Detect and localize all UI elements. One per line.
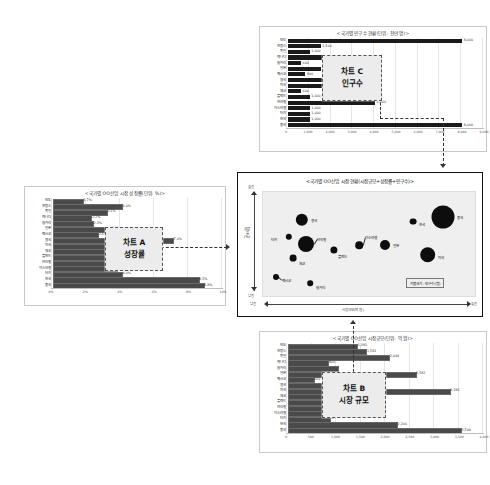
bubble-label-브라질: 브라질	[317, 236, 326, 241]
bar-track: 1,500	[288, 44, 484, 49]
bar-track: 1,000	[288, 94, 484, 99]
bar-category-label: 영국	[25, 238, 53, 243]
bubble-y-axis-title: 성장률(%)	[244, 227, 250, 239]
bar-track: 4.0%	[53, 204, 223, 209]
chart-b-title: <국가별 OO산업 시장규모(단위: 억 원)>	[260, 332, 486, 341]
bar-category-label: 일본	[260, 66, 288, 71]
connector-a-horizontal	[161, 247, 227, 248]
bubble-멕시코	[273, 274, 279, 280]
y-axis-arrow-down	[251, 287, 257, 291]
bar-value-label: 1,581	[365, 349, 376, 354]
bar-track	[288, 382, 484, 387]
bubble-체코	[290, 254, 297, 261]
axis-tick-label: 3,000	[347, 130, 356, 134]
callout-chart-b-line1: 차트 B	[343, 383, 365, 395]
bar-row: 독일3.1%	[25, 209, 223, 214]
axis-tick-label: 6%	[152, 290, 157, 294]
connector-c-vertical-stub	[380, 98, 381, 119]
bar-track: 8,000	[288, 123, 484, 128]
axis-tick-label: 4%	[117, 290, 122, 294]
bar-category-label: 캐나다	[260, 55, 288, 60]
bar-track	[288, 83, 484, 88]
bar-category-label: 폴란드	[260, 399, 288, 404]
bar-track	[288, 405, 484, 410]
axis-tick-label: 1,000	[303, 130, 312, 134]
bar-value-label: 4.0%	[121, 204, 131, 209]
bar-track: 3,000	[288, 77, 484, 82]
bar-track: 1,800	[288, 55, 484, 60]
bar-category-label: 헝가리	[260, 61, 288, 66]
bar-category-label: 이스라엘	[260, 106, 288, 111]
bar-row: 터키4.0%	[25, 271, 223, 276]
bar-track: 2,582	[288, 371, 484, 376]
bar-row: 한국2,206	[260, 422, 484, 427]
bubble-label-체코: 체코	[299, 260, 305, 265]
bar-category-label: 인도	[25, 198, 53, 203]
bar-value-label: 8,000	[462, 123, 473, 128]
bubble-중국	[431, 206, 454, 229]
axis-tick-label: 9,000	[479, 130, 488, 134]
bar-track	[288, 399, 484, 404]
bar	[288, 72, 305, 76]
bar-value-label: 2,582	[415, 371, 426, 376]
bar-row: 독일2,044	[260, 354, 484, 359]
bar	[288, 123, 462, 127]
bar-value-label: 8,000	[462, 38, 473, 43]
axis-tick-label: 0	[285, 130, 287, 134]
bar-row: 인도1,391	[260, 343, 484, 348]
bar-category-label: 이스라엘	[260, 411, 288, 416]
connector-b-vertical	[353, 326, 354, 372]
bar-track: 800	[288, 72, 484, 77]
bar-value-label: 2.2%	[90, 215, 100, 220]
bar-track: 4,000	[288, 100, 484, 105]
bar-value-label: 800	[305, 72, 313, 77]
bar-value-label: 1.7%	[82, 198, 92, 203]
axis-tick-label: 0%	[48, 290, 53, 294]
bar-row: 이스라엘1,000	[260, 106, 484, 111]
bar-row: 독일1,000	[260, 49, 484, 54]
bar-category-label: 독일	[260, 354, 288, 359]
bar	[288, 44, 321, 48]
bar	[288, 101, 375, 105]
y-axis-low-label: 낮음	[248, 293, 254, 298]
bar	[288, 112, 310, 116]
bar-value-label: 7.0%	[172, 237, 182, 242]
bar-category-label: 인도	[260, 38, 288, 43]
bar	[288, 39, 462, 43]
chart-c-title: <국가별 인구수 현황(단위: 천만 명)>	[260, 27, 486, 36]
axis-tick-label: 2,000	[325, 130, 334, 134]
bar-value-label: 2,044	[388, 354, 399, 359]
bubble-한국	[409, 218, 416, 225]
bar	[288, 95, 310, 99]
bar-track: 2,044	[288, 354, 484, 359]
bar-track: 1,000	[288, 111, 484, 116]
bar-value-label: 8.5%	[198, 277, 208, 282]
bar-category-label: 터키	[260, 416, 288, 421]
callout-chart-c: 차트 C 인구수	[322, 55, 382, 101]
x-axis: 01,0002,0003,0004,0005,0006,0007,0008,00…	[286, 128, 484, 136]
bar-value-label: 3.1%	[106, 209, 116, 214]
axis-tick-label: 5,000	[391, 130, 400, 134]
axis-tick-label: 2%	[83, 290, 88, 294]
bar-value-label: 2.3%	[92, 221, 102, 226]
bar-track: 2.2%	[53, 215, 223, 220]
bar-row: 헝가리	[260, 366, 484, 371]
bubble-size-legend: 거품크기 : 인구수(명)	[406, 278, 444, 288]
bar-category-label: 폴란드	[260, 94, 288, 99]
bar-category-label: 폴란드	[25, 254, 53, 259]
bar-category-label: 한국	[25, 277, 53, 282]
connector-c-horizontal	[380, 118, 444, 119]
bar	[288, 117, 310, 121]
callout-chart-c-line2: 인구수	[342, 78, 363, 90]
bar-row: 한국8.5%	[25, 277, 223, 282]
bubble-chart-title: <국가별 OO산업 시장 현황(시장규모+성장률+인구수)>	[238, 173, 482, 184]
bar-category-label: 영국	[260, 383, 288, 388]
bar-value-label: 500	[313, 377, 321, 382]
bar-value-label: 800	[327, 360, 335, 365]
bubble-label-터키: 터키	[271, 236, 277, 241]
bar-track: 1,391	[288, 343, 484, 348]
bar-category-label: 프랑스	[260, 44, 288, 49]
bubble-터키	[285, 233, 291, 239]
bar-value-label: 2,206	[396, 422, 407, 427]
x-axis-low-label: 낮음	[250, 301, 256, 306]
